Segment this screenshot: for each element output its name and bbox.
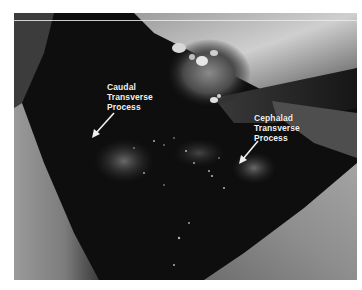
label-line: Transverse [107, 92, 153, 102]
surgical-field-scene [14, 13, 357, 280]
surgical-photo: Caudal Transverse Process Cephalad Trans… [14, 13, 357, 280]
label-line: Transverse [254, 123, 300, 133]
top-divider-line [14, 20, 357, 21]
label-line: Caudal [107, 82, 153, 92]
label-line: Cephalad [254, 113, 300, 123]
caudal-arrow-icon [88, 111, 118, 141]
caudal-transverse-process-label: Caudal Transverse Process [107, 82, 153, 112]
cephalad-arrow-icon [236, 139, 262, 167]
